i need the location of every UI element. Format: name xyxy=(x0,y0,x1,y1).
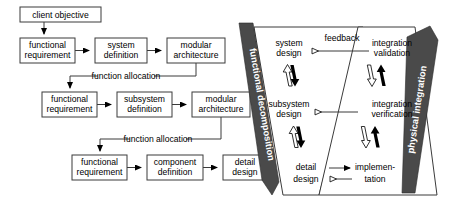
connector-label-function-allocation: function allocation xyxy=(92,71,161,81)
box-label: modular xyxy=(180,40,211,50)
box-label: architecture xyxy=(199,104,244,114)
flow-row-1: functional requirement system definition… xyxy=(20,38,225,63)
stage-label: tation xyxy=(364,174,385,184)
box-label: requirement xyxy=(47,104,93,114)
box-label: detail xyxy=(235,157,256,167)
box-label: functional xyxy=(51,94,88,104)
flow-row-3: functional requirement component definit… xyxy=(72,155,267,180)
box-label: modular xyxy=(205,94,236,104)
diagram-root: client objective functional requirement … xyxy=(0,0,458,209)
stage-label: detail xyxy=(296,162,317,172)
box-label: architecture xyxy=(174,50,219,60)
box-label: definition xyxy=(158,167,193,177)
box-label: client objective xyxy=(32,10,89,20)
box-label: functional xyxy=(81,157,118,167)
diagram-canvas: client objective functional requirement … xyxy=(0,0,458,209)
box-label: component xyxy=(154,157,197,167)
box-label: requirement xyxy=(25,50,71,60)
connector-label-function-allocation: function allocation xyxy=(124,134,193,144)
v-stage-integration-verification: integration verification xyxy=(371,99,412,119)
box-label: subsystem xyxy=(124,94,165,104)
v-stage-integration-validation: integration validation xyxy=(372,38,412,58)
stage-label: design xyxy=(293,174,319,184)
stage-label: integration xyxy=(372,38,412,48)
stage-label: design xyxy=(276,109,302,119)
box-label: definition xyxy=(127,104,162,114)
box-label: definition xyxy=(104,50,139,60)
stage-label: system xyxy=(275,38,302,48)
flow-row-2: functional requirement subsystem definit… xyxy=(42,92,250,117)
stage-label: validation xyxy=(374,48,411,58)
cross-link-label: feedback xyxy=(325,33,361,43)
box-label: system xyxy=(107,40,134,50)
box-label: design xyxy=(232,167,258,177)
stage-label: integration xyxy=(372,99,412,109)
stage-label: subsystem xyxy=(268,99,309,109)
stage-label: design xyxy=(276,48,302,58)
v-stage-system-design: system design xyxy=(275,38,302,58)
box-label: functional xyxy=(29,40,66,50)
stage-label: verification xyxy=(371,109,412,119)
stage-label: implemen- xyxy=(355,162,395,172)
box-client-objective: client objective xyxy=(20,7,101,22)
box-label: requirement xyxy=(77,167,123,177)
